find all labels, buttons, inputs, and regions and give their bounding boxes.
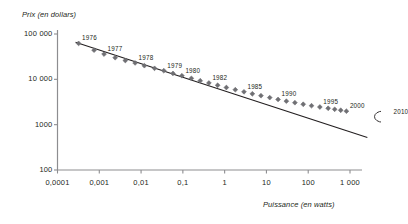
axis-ticks [54,34,350,174]
point-label-1976: 1976 [82,34,97,41]
data-point-marker [301,102,306,107]
data-point-marker [233,87,238,92]
point-label-1979: 1979 [167,62,182,69]
data-point-marker [326,106,331,111]
data-point-marker [292,100,297,105]
point-label-1977: 1977 [108,45,123,52]
point-label-1982: 1982 [212,74,227,81]
y-tick-label: 100 000 [24,29,53,38]
data-point-marker [224,85,229,90]
data-point-marker [338,108,343,113]
data-point-marker [267,95,272,100]
data-point-marker [259,93,264,98]
data-point-marker [344,109,349,114]
y-tick-label: 10 000 [28,74,52,83]
point-label-1995: 1995 [323,98,338,105]
data-point-marker [332,107,337,112]
point-label-2000: 2000 [350,102,365,109]
data-point-marker [161,68,166,73]
data-point-marker [152,66,157,71]
point-label-2010: 2010 [394,108,408,115]
x-tick-label: 1 000 [320,178,380,187]
data-point-marker [76,41,81,46]
series-projection [375,111,381,122]
point-label-1980: 1980 [185,67,200,74]
point-label-1985: 1985 [247,83,262,90]
data-point-marker [242,89,247,94]
data-point-marker [309,103,314,108]
projection-marker [375,111,381,122]
trend-line [76,42,368,137]
data-point-marker [215,83,220,88]
point-label-1978: 1978 [139,54,154,61]
y-tick-label: 1000 [35,120,53,129]
data-point-marker [276,97,281,102]
data-point-marker [284,99,289,104]
point-label-1990: 1990 [282,90,297,97]
data-point-marker [250,91,255,96]
data-point-marker [317,105,322,110]
y-tick-label: 100 [39,165,52,174]
